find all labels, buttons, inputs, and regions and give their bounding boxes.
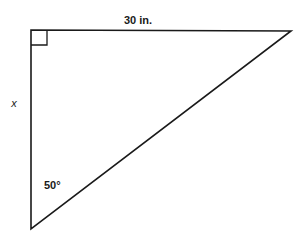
- left-side-label: x: [10, 97, 17, 109]
- top-side-label: 30 in.: [124, 14, 152, 26]
- right-triangle-diagram: 30 in. x 50°: [0, 0, 301, 246]
- angle-label: 50°: [44, 179, 61, 191]
- triangle-shape: [31, 30, 291, 229]
- right-angle-marker: [31, 30, 47, 45]
